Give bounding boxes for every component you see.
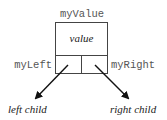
node-label: myValue (60, 8, 104, 20)
value-label: value (70, 32, 94, 44)
tree-node-diagram: myValue value myLeft myRight left child … (0, 0, 167, 120)
right-child-label: right child (110, 103, 157, 115)
left-child-label: left child (8, 103, 47, 115)
left-pointer-label: myLeft (14, 59, 52, 71)
right-pointer-label: myRight (111, 59, 155, 71)
